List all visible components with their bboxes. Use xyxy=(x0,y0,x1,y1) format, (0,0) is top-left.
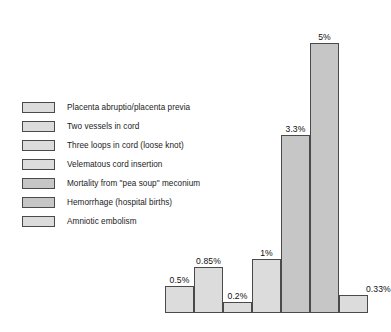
bar-value-label: 0.85% xyxy=(196,256,221,268)
legend-item-label: Two vessels in cord xyxy=(67,122,139,131)
legend-swatch-icon xyxy=(22,197,55,208)
bar: 1% xyxy=(252,259,281,313)
legend-swatch-icon xyxy=(22,216,55,227)
x-axis-line xyxy=(165,312,368,313)
bar-cell: 1% xyxy=(252,27,281,313)
bar: 0.85% xyxy=(194,267,223,313)
legend-item-label: Amniotic embolism xyxy=(67,217,137,226)
bar: 0.33% xyxy=(339,295,368,313)
bar-value-label: 0.5% xyxy=(170,275,190,287)
legend-item-label: Velematous cord insertion xyxy=(67,160,162,169)
bar-cell: 5% xyxy=(310,27,339,313)
legend-item-label: Hemorrhage (hospital births) xyxy=(67,198,172,207)
bar: 0.5% xyxy=(165,286,194,313)
bar-cell: 0.2% xyxy=(223,27,252,313)
bar-value-label: 3.3% xyxy=(286,124,306,136)
bar-cell: 0.85% xyxy=(194,27,223,313)
legend-swatch-icon xyxy=(22,121,55,132)
legend-swatch-icon xyxy=(22,159,55,170)
bar: 3.3% xyxy=(281,135,310,313)
bar-cell: 3.3% xyxy=(281,27,310,313)
bar-value-label: 0.2% xyxy=(228,291,248,303)
legend-swatch-icon xyxy=(22,140,55,151)
bar-cell: 0.5% xyxy=(165,27,194,313)
bar-value-label: 5% xyxy=(318,32,331,44)
bar-cell: 0.33% xyxy=(339,27,368,313)
legend-swatch-icon xyxy=(22,102,55,113)
bar-value-label: 0.33% xyxy=(366,284,391,296)
legend-swatch-icon xyxy=(22,178,55,189)
chart-plot-area: 0.5% 0.85% 0.2% 1% 3.3% xyxy=(165,27,368,313)
bar-series: 0.5% 0.85% 0.2% 1% 3.3% xyxy=(165,27,368,313)
bar: 5% xyxy=(310,43,339,313)
bar-value-label: 1% xyxy=(260,248,273,260)
